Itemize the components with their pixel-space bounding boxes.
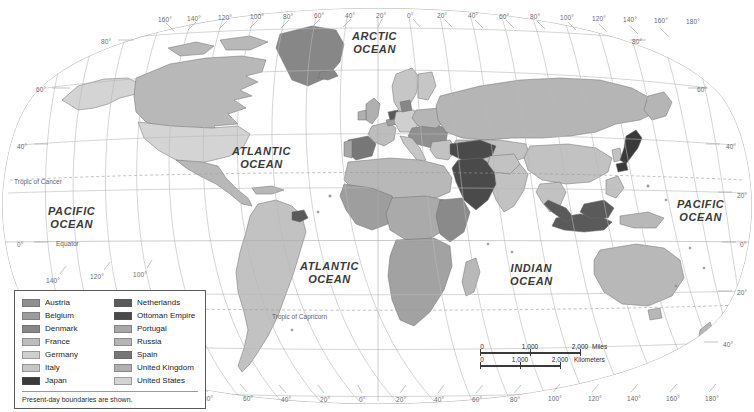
map-legend: AustriaBelgiumDenmarkFranceGermanyItalyJ… xyxy=(14,290,206,409)
legend-item: Denmark xyxy=(22,323,106,334)
country-tasmania xyxy=(648,308,662,320)
country-new-zealand-south xyxy=(692,342,704,356)
legend-label: Ottoman Empire xyxy=(137,312,195,320)
legend-label: Spain xyxy=(137,351,157,359)
country-portugal xyxy=(344,140,352,158)
legend-label: Belgium xyxy=(45,312,74,320)
legend-swatch xyxy=(114,299,132,307)
world-map: ARCTICOCEANATLANTICOCEANPACIFICOCEANPACI… xyxy=(0,0,754,412)
island-dot xyxy=(511,251,513,253)
legend-swatch xyxy=(22,351,40,359)
scale-label-miles-1000: 1,000 xyxy=(522,343,538,350)
island-dot xyxy=(665,199,667,201)
legend-item: France xyxy=(22,336,106,347)
legend-item: Russia xyxy=(114,336,198,347)
legend-label: Austria xyxy=(45,299,70,307)
legend-item: Japan xyxy=(22,375,106,386)
legend-item: Germany xyxy=(22,349,106,360)
legend-swatch xyxy=(22,338,40,346)
legend-label: Netherlands xyxy=(137,299,180,307)
legend-item: Italy xyxy=(22,362,106,373)
legend-item: Ottoman Empire xyxy=(114,310,198,321)
scale-row-kilometers: 0 1,000 2,000 Kilometers xyxy=(480,357,598,370)
legend-label: United States xyxy=(137,377,185,385)
island-dot xyxy=(329,195,331,197)
country-denmark xyxy=(400,100,412,112)
scale-tick xyxy=(520,362,521,369)
legend-item: United Kingdom xyxy=(114,362,198,373)
legend-swatch xyxy=(114,338,132,346)
legend-column-1: AustriaBelgiumDenmarkFranceGermanyItalyJ… xyxy=(22,297,106,386)
scale-tick xyxy=(480,362,481,369)
scale-label-km-1000: 1,000 xyxy=(512,356,528,363)
legend-item: Portugal xyxy=(114,323,198,334)
island-dot xyxy=(689,247,691,249)
legend-swatch xyxy=(114,351,132,359)
scale-tick xyxy=(480,349,481,356)
scale-label-km-0: 0 xyxy=(480,356,484,363)
country-japan-south xyxy=(616,162,628,172)
scale-tick xyxy=(580,349,581,356)
legend-swatch xyxy=(22,299,40,307)
scale-label-miles-2000: 2,000 xyxy=(572,343,588,350)
scale-tick xyxy=(530,349,531,356)
island-dot xyxy=(703,267,705,269)
legend-swatch xyxy=(114,364,132,372)
scale-unit-miles: Miles xyxy=(592,343,607,350)
scale-unit-kilometers: Kilometers xyxy=(574,356,605,363)
scale-tick xyxy=(560,362,561,369)
legend-item: Spain xyxy=(114,349,198,360)
legend-swatch xyxy=(114,325,132,333)
island-dot xyxy=(675,285,677,287)
country-ireland xyxy=(358,110,366,120)
legend-note: Present-day boundaries are shown. xyxy=(22,391,198,403)
legend-label: Russia xyxy=(137,338,161,346)
legend-columns: AustriaBelgiumDenmarkFranceGermanyItalyJ… xyxy=(22,297,198,386)
island-dot xyxy=(647,185,649,187)
legend-item: Belgium xyxy=(22,310,106,321)
legend-column-2: NetherlandsOttoman EmpirePortugalRussiaS… xyxy=(114,297,198,386)
legend-label: Germany xyxy=(45,351,78,359)
legend-swatch xyxy=(22,364,40,372)
legend-swatch xyxy=(22,312,40,320)
legend-label: Portugal xyxy=(137,325,167,333)
legend-label: Japan xyxy=(45,377,67,385)
legend-swatch xyxy=(22,377,40,385)
legend-item: Netherlands xyxy=(114,297,198,308)
legend-swatch xyxy=(22,325,40,333)
legend-label: United Kingdom xyxy=(137,364,194,372)
legend-label: Italy xyxy=(45,364,60,372)
scale-label-km-2000: 2,000 xyxy=(552,356,568,363)
island-dot xyxy=(487,243,489,245)
legend-item: Austria xyxy=(22,297,106,308)
scale-label-miles-0: 0 xyxy=(480,343,484,350)
legend-swatch xyxy=(114,377,132,385)
island-dot xyxy=(291,329,293,331)
legend-swatch xyxy=(114,312,132,320)
legend-item: United States xyxy=(114,375,198,386)
island-dot xyxy=(317,211,319,213)
scale-bar: 0 1,000 2,000 Miles 0 1,000 2,000 Kilome… xyxy=(480,344,598,370)
legend-label: Denmark xyxy=(45,325,77,333)
legend-label: France xyxy=(45,338,70,346)
